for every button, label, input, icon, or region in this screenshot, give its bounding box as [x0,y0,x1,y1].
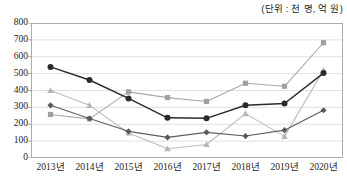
data-point [165,95,170,100]
y-axis: 0100200300400500600700800 [0,23,28,158]
y-tick-label: 100 [0,136,28,146]
data-point [126,89,131,94]
data-point [87,77,93,83]
y-tick-label: 600 [0,52,28,62]
y-tick-label: 700 [0,35,28,45]
line-chart: (단위 : 천 명, 억 원) 010020030040050060070080… [0,0,347,188]
data-point [282,84,287,89]
x-tick-label: 2020년 [310,162,338,173]
x-tick-label: 2016년 [154,162,182,173]
x-tick-label: 2017년 [193,162,221,173]
x-tick-label: 2015년 [115,162,143,173]
data-point [48,64,54,70]
x-tick-label: 2019년 [271,162,299,173]
data-point [321,40,326,45]
data-point [243,81,248,86]
data-point [48,112,53,117]
data-point [204,115,210,121]
y-tick-label: 200 [0,120,28,130]
data-point [243,102,249,108]
y-tick-label: 0 [0,153,28,163]
data-point [282,100,288,106]
y-tick-label: 300 [0,103,28,113]
y-axis-ticks [27,23,31,158]
data-point [321,70,327,76]
plot-area [31,23,343,158]
x-tick-label: 2014년 [76,162,104,173]
data-point [165,115,171,121]
data-point [126,95,132,101]
data-point [204,99,209,104]
y-tick-label: 500 [0,69,28,79]
x-axis: 2013년2014년2015년2016년2017년2018년2019년2020년 [31,162,343,178]
x-tick-label: 2013년 [37,162,65,173]
plot-svg [31,23,343,158]
x-tick-label: 2018년 [232,162,260,173]
unit-note: (단위 : 천 명, 억 원) [261,1,343,15]
y-tick-label: 800 [0,18,28,28]
y-tick-label: 400 [0,86,28,96]
